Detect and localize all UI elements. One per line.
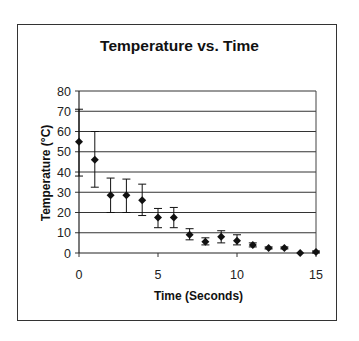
data-point-diamond-icon — [154, 214, 162, 222]
y-tick-label: 30 — [57, 186, 71, 200]
x-tick-label: 15 — [309, 268, 323, 282]
x-tick-label: 10 — [230, 268, 244, 282]
data-point-diamond-icon — [280, 244, 288, 252]
data-point-diamond-icon — [249, 241, 257, 249]
y-tick-label: 60 — [57, 125, 71, 139]
data-point-diamond-icon — [217, 233, 225, 241]
plot-area: 01020304050607080051015 — [0, 0, 359, 341]
y-tick-label: 10 — [57, 226, 71, 240]
data-point-diamond-icon — [312, 248, 320, 256]
x-tick-label: 5 — [155, 268, 162, 282]
data-point-diamond-icon — [233, 237, 241, 245]
y-tick-label: 0 — [64, 247, 71, 261]
data-point-diamond-icon — [75, 138, 83, 146]
y-tick-label: 50 — [57, 145, 71, 159]
y-tick-label: 80 — [57, 85, 71, 99]
data-point-diamond-icon — [265, 244, 273, 252]
y-tick-label: 20 — [57, 206, 71, 220]
y-tick-label: 70 — [57, 105, 71, 119]
y-tick-label: 40 — [57, 166, 71, 180]
data-point-diamond-icon — [170, 214, 178, 222]
x-tick-label: 0 — [76, 268, 83, 282]
data-point-diamond-icon — [138, 196, 146, 204]
data-point-diamond-icon — [91, 156, 99, 164]
data-point-diamond-icon — [296, 249, 304, 257]
data-point-diamond-icon — [186, 231, 194, 239]
